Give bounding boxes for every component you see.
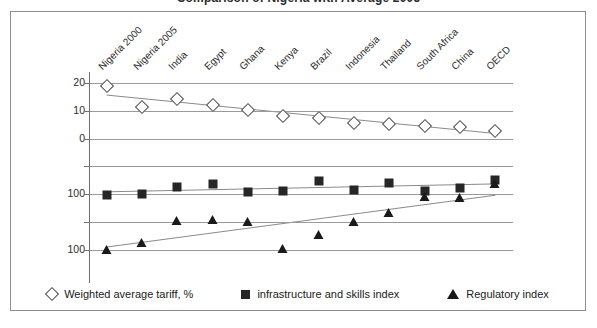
x-axis-category-label: Egypt <box>203 47 228 72</box>
data-point-square <box>102 190 111 199</box>
chart-legend: Weighted average tariff, %infrastructure… <box>10 283 586 305</box>
data-point-triangle <box>243 217 253 226</box>
x-axis-category-label: Kenya <box>273 45 300 72</box>
y-axis-tick <box>84 194 90 195</box>
plot-area <box>89 72 513 269</box>
x-axis-category-label: India <box>167 50 189 72</box>
gridline <box>89 166 513 167</box>
legend-item: Weighted average tariff, % <box>47 288 193 300</box>
y-axis-tick <box>84 83 90 84</box>
data-point-square <box>456 184 465 193</box>
data-point-square <box>173 183 182 192</box>
legend-diamond-icon <box>45 287 59 301</box>
data-point-triangle <box>490 179 500 188</box>
y-axis-tick <box>84 250 90 251</box>
x-axis-category-label: Thailand <box>379 38 413 72</box>
trendline-layer <box>89 72 513 269</box>
data-point-square <box>244 187 253 196</box>
trendline-square <box>107 184 496 192</box>
data-point-square <box>314 177 323 186</box>
gridline <box>89 139 513 140</box>
page-title: Comparison of Nigeria with Average 2005 <box>0 0 597 5</box>
data-point-triangle <box>313 230 323 239</box>
legend-item-label: infrastructure and skills index <box>257 288 399 300</box>
x-axis-category-label: OECD <box>485 44 513 72</box>
gridline <box>89 194 513 195</box>
x-axis-category-label: China <box>450 46 476 72</box>
chart-title-strip: Comparison of Nigeria with Average 2005 <box>0 0 597 11</box>
x-axis-category-label: Indonesia <box>344 34 382 72</box>
data-point-triangle <box>455 193 465 202</box>
x-axis-category-label: Brazil <box>309 47 334 72</box>
legend-item: infrastructure and skills index <box>241 288 399 300</box>
data-point-triangle <box>172 216 182 225</box>
y-axis-tick-label: 100 <box>67 244 85 255</box>
data-point-triangle <box>207 215 217 224</box>
data-point-square <box>208 179 217 188</box>
chart-figure-frame: Nigeria 2000Nigeria 2005IndiaEgyptGhanaK… <box>10 11 586 311</box>
data-point-square <box>138 189 147 198</box>
legend-item-label: Weighted average tariff, % <box>64 288 193 300</box>
data-point-triangle <box>384 208 394 217</box>
legend-triangle-icon <box>447 289 459 299</box>
data-point-triangle <box>349 217 359 226</box>
y-axis-tick <box>84 111 90 112</box>
data-point-triangle <box>419 192 429 201</box>
y-axis-tick-labels: 20100100100 <box>41 72 85 269</box>
legend-square-icon <box>241 290 250 299</box>
gridline <box>89 250 513 251</box>
gridline <box>89 83 513 84</box>
legend-item: Regulatory index <box>447 288 549 300</box>
data-point-triangle <box>137 238 147 247</box>
gridline <box>89 111 513 112</box>
data-point-triangle <box>101 245 111 254</box>
legend-item-label: Regulatory index <box>466 288 549 300</box>
x-axis-category-labels: Nigeria 2000Nigeria 2005IndiaEgyptGhanaK… <box>89 12 589 72</box>
data-point-square <box>350 185 359 194</box>
data-point-square <box>385 178 394 187</box>
data-point-square <box>279 186 288 195</box>
x-axis-category-label: Ghana <box>238 44 266 72</box>
y-axis-tick-label: 100 <box>67 188 85 199</box>
y-axis-tick <box>84 139 90 140</box>
trendline-diamond <box>107 95 496 133</box>
data-point-triangle <box>278 244 288 253</box>
gridline <box>89 222 513 223</box>
y-axis-tick <box>84 222 90 223</box>
y-axis-tick <box>84 166 90 167</box>
